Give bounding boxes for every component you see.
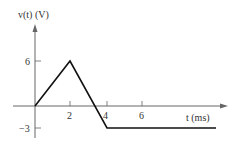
x-tick-label-6: 6 <box>139 110 144 121</box>
y-axis-arrow-icon <box>33 24 38 32</box>
waveform-chart: v(t) (V) t (ms) 2 4 6 6 −3 <box>0 0 242 146</box>
x-axis-label: t (ms) <box>186 112 210 124</box>
y-tick-label-6: 6 <box>25 56 30 67</box>
x-tick-label-4: 4 <box>103 110 108 121</box>
y-tick-label-neg3: −3 <box>19 123 30 134</box>
x-tick-label-2: 2 <box>67 110 72 121</box>
x-axis-arrow-icon <box>220 104 228 109</box>
y-axis-label: v(t) (V) <box>18 9 49 21</box>
